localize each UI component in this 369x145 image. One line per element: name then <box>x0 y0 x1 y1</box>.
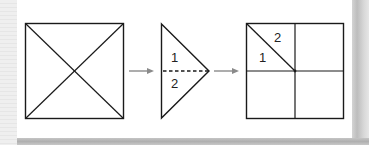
center-point <box>294 70 297 73</box>
panel-quartered-square: 2 1 <box>247 24 344 119</box>
quadrant-label-upper: 2 <box>274 30 281 45</box>
quadrant-diagonal <box>247 24 296 72</box>
triangle-label-top: 1 <box>171 50 178 65</box>
arrow-right-icon <box>214 68 239 74</box>
arrow-right-icon <box>129 68 154 74</box>
panel-square-with-diagonals <box>26 24 124 119</box>
triangle-label-bottom: 2 <box>171 76 178 91</box>
quadrant-label-lower: 1 <box>259 50 266 65</box>
panel-folded-triangle: 1 2 <box>162 24 210 118</box>
folding-diagram: 1 2 2 1 <box>0 0 369 145</box>
